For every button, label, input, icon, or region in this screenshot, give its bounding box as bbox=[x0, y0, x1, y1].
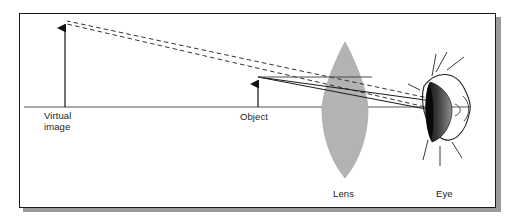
eye-brow-stroke bbox=[408, 84, 420, 90]
eye-inner-corner bbox=[455, 104, 460, 116]
virtual-image-label-line1: Virtual bbox=[44, 110, 71, 121]
virtual-image-label-line2: image bbox=[44, 121, 70, 132]
object-label: Object bbox=[240, 111, 268, 122]
eyelash-1 bbox=[436, 52, 447, 72]
virtual-ray-lower bbox=[67, 24, 447, 112]
eye-label: Eye bbox=[436, 188, 453, 199]
virtual-image-label: Virtual image bbox=[44, 110, 71, 132]
human-eye bbox=[408, 52, 470, 166]
lens-label: Lens bbox=[333, 188, 354, 199]
virtual-ray-upper bbox=[67, 21, 447, 102]
eyelash-6 bbox=[452, 142, 462, 158]
eyelash-2 bbox=[432, 54, 436, 76]
converging-lens bbox=[322, 42, 368, 178]
figure-container: Virtual image Object Lens Eye bbox=[0, 0, 514, 224]
eyelash-3 bbox=[447, 57, 464, 70]
eyelash-4 bbox=[423, 140, 428, 160]
